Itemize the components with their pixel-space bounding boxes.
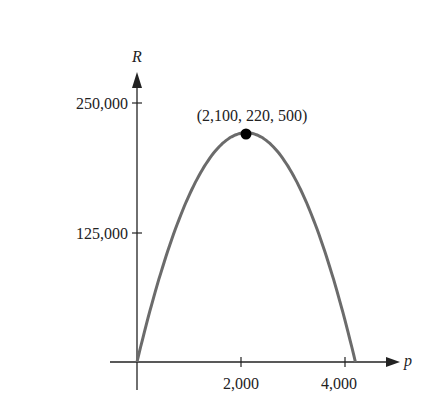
revenue-curve	[137, 133, 355, 362]
y-axis-label: R	[131, 48, 142, 65]
x-axis-label: p	[403, 352, 412, 370]
chart: 2,000 4,000 125,000 250,000 R p (2,100, …	[0, 0, 424, 401]
x-axis-arrow-icon	[386, 357, 400, 367]
y-tick-label-250000: 250,000	[76, 95, 128, 112]
y-tick-label-125000: 125,000	[76, 225, 128, 242]
vertex-point	[241, 129, 252, 140]
y-axis-arrow-icon	[132, 72, 142, 88]
x-tick-label-2000: 2,000	[223, 375, 259, 392]
x-tick-label-4000: 4,000	[321, 375, 357, 392]
vertex-annotation: (2,100, 220, 500)	[197, 107, 308, 125]
